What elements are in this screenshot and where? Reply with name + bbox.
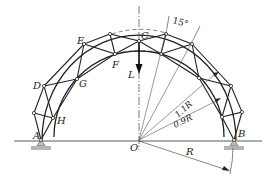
label-a: A [32,130,40,141]
load-arrow [136,42,143,74]
label-c: C [141,30,149,41]
label-h: H [56,115,66,126]
label-o: O [130,142,138,153]
support-b [224,139,244,151]
r-arrowhead [222,166,230,171]
label-e: E [76,35,85,46]
label-angle: 15° [171,15,189,29]
label-f: F [111,59,120,70]
truss-arch-diagram: A B C D E F G H L O R 15° 1.1R 0.9R [0,0,277,188]
label-d: D [32,80,41,91]
label-b: B [237,128,245,139]
truss-nodes [32,32,243,119]
label-r: R [185,146,194,157]
label-g: G [79,78,87,89]
label-l: L [127,69,135,80]
